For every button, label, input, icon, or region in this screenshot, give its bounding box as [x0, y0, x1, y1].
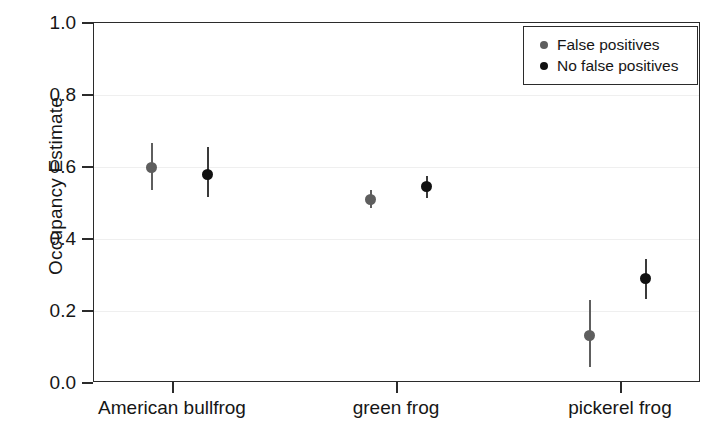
legend-marker-icon-no-false-positives [540, 62, 548, 70]
y-tick-label-0.6: 0.6 [16, 157, 76, 176]
y-axis-title: Occupancy Estimate [45, 26, 67, 346]
y-tick-label-0.8: 0.8 [16, 85, 76, 104]
y-tick-mark-0.2 [82, 310, 93, 312]
point-pickerel-frog-no-false-positives [640, 273, 651, 284]
gridline-0.6 [94, 167, 699, 168]
x-tick-mark-green-frog [396, 382, 398, 393]
y-tick-mark-0.0 [82, 382, 93, 384]
legend: False positives No false positives [523, 26, 698, 85]
point-green-frog-false-positives [365, 194, 376, 205]
x-tick-label-american-bullfrog: American bullfrog [62, 398, 282, 417]
occupancy-estimate-chart: Occupancy Estimate 1.0 0.8 0.6 0.4 0.2 0… [0, 0, 712, 446]
gridline-0.8 [94, 95, 699, 96]
gridline-0.2 [94, 311, 699, 312]
legend-item-false-positives: False positives [533, 34, 688, 55]
y-tick-mark-0.6 [82, 166, 93, 168]
y-tick-mark-0.4 [82, 238, 93, 240]
legend-item-no-false-positives: No false positives [533, 55, 688, 76]
x-tick-label-pickerel-frog: pickerel frog [510, 398, 712, 417]
legend-label-no-false-positives: No false positives [557, 57, 678, 75]
point-green-frog-no-false-positives [421, 181, 432, 192]
gridline-0.4 [94, 239, 699, 240]
y-tick-label-0.2: 0.2 [16, 301, 76, 320]
y-tick-label-0.0: 0.0 [16, 373, 76, 392]
x-tick-mark-american-bullfrog [172, 382, 174, 393]
point-american-bullfrog-false-positives [146, 162, 157, 173]
y-tick-mark-0.8 [82, 94, 93, 96]
x-tick-mark-pickerel-frog [620, 382, 622, 393]
point-american-bullfrog-no-false-positives [202, 169, 213, 180]
legend-label-false-positives: False positives [557, 36, 660, 54]
y-tick-label-1.0: 1.0 [16, 13, 76, 32]
y-tick-label-0.4: 0.4 [16, 229, 76, 248]
legend-marker-icon-false-positives [540, 41, 548, 49]
y-tick-mark-1.0 [82, 22, 93, 24]
x-tick-label-green-frog: green frog [286, 398, 506, 417]
point-pickerel-frog-false-positives [584, 330, 595, 341]
